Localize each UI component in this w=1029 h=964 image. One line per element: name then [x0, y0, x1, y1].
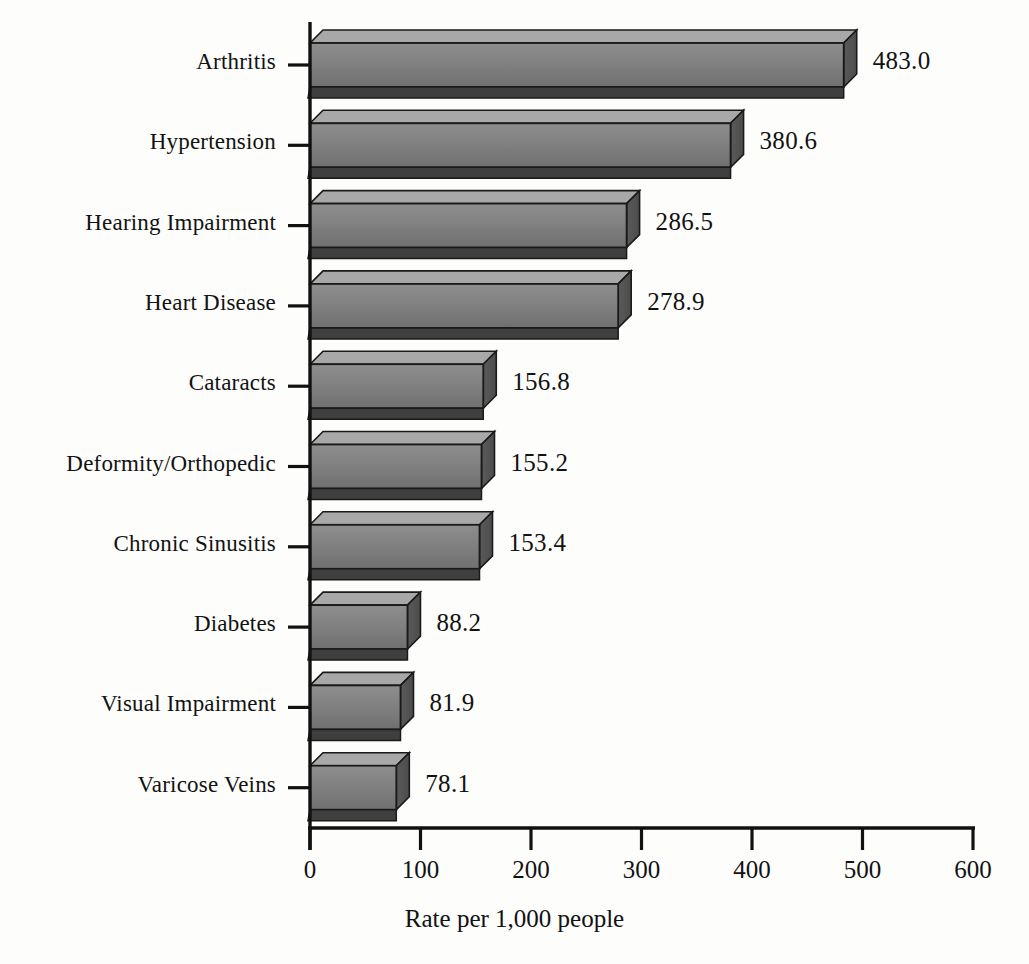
- bar-value-label: 380.6: [760, 127, 818, 155]
- bar-value-label: 88.2: [436, 609, 481, 637]
- x-tick-marks: [310, 828, 973, 850]
- bar-chart: ArthritisHypertensionHearing ImpairmentH…: [0, 0, 1029, 964]
- category-label: Visual Impairment: [101, 691, 276, 717]
- x-tick-label: 0: [270, 856, 350, 884]
- category-label: Arthritis: [196, 49, 276, 75]
- bar-value-label: 278.9: [647, 288, 705, 316]
- bar-value-label: 153.4: [509, 529, 567, 557]
- bar: [308, 30, 857, 98]
- bar-value-label: 78.1: [425, 770, 470, 798]
- x-tick-label: 600: [933, 856, 1013, 884]
- category-label: Deformity/Orthopedic: [66, 451, 276, 477]
- x-axis-title: Rate per 1,000 people: [0, 905, 1029, 933]
- bar: [308, 672, 413, 740]
- x-tick-label: 200: [491, 856, 571, 884]
- bar: [308, 753, 409, 821]
- category-label: Hearing Impairment: [85, 210, 276, 236]
- category-label: Chronic Sinusitis: [113, 531, 276, 557]
- category-label: Heart Disease: [145, 290, 276, 316]
- bar: [308, 191, 640, 259]
- bar: [308, 110, 744, 178]
- x-tick-label: 300: [602, 856, 682, 884]
- category-label: Diabetes: [194, 611, 276, 637]
- bar-value-label: 81.9: [429, 689, 474, 717]
- category-label: Cataracts: [189, 370, 276, 396]
- x-tick-label: 500: [823, 856, 903, 884]
- category-label: Hypertension: [150, 129, 276, 155]
- bar-value-label: 483.0: [873, 47, 931, 75]
- bar-value-label: 155.2: [510, 449, 568, 477]
- x-tick-label: 400: [712, 856, 792, 884]
- bar-value-label: 286.5: [656, 208, 714, 236]
- bar: [308, 351, 496, 419]
- x-tick-label: 100: [381, 856, 461, 884]
- bar: [308, 271, 631, 339]
- category-label: Varicose Veins: [138, 772, 276, 798]
- bar: [308, 512, 493, 580]
- y-tick-marks: [288, 65, 310, 788]
- bar: [308, 432, 494, 500]
- bar: [308, 592, 420, 660]
- bar-value-label: 156.8: [512, 368, 570, 396]
